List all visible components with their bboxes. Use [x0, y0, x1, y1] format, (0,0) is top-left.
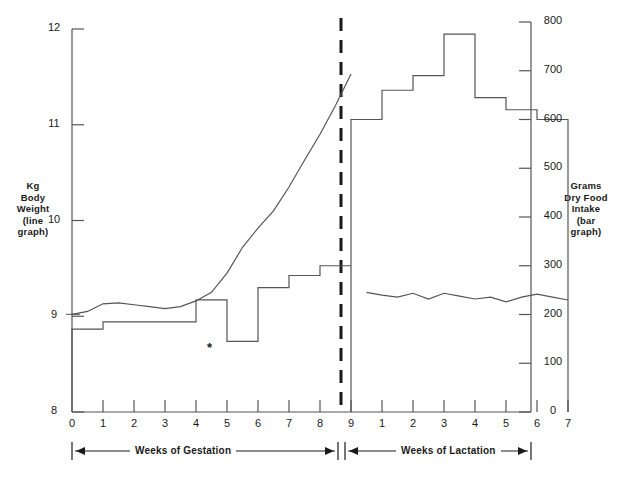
x-tick-label-8: 8 — [310, 417, 330, 429]
gestation-band-label: Weeks of Gestation — [130, 445, 236, 456]
gestation-bar-steps — [72, 266, 351, 412]
x-tick-label-7: 7 — [279, 417, 299, 429]
asterisk-annotation: * — [207, 340, 212, 355]
right-tick-label-500: 500 — [540, 160, 566, 172]
right-tick-label-600: 600 — [540, 112, 566, 124]
x-tick-label-12: 3 — [434, 417, 454, 429]
left-tick-label-8: 8 — [44, 404, 64, 416]
x-tick-label-1: 1 — [93, 417, 113, 429]
plot-area — [0, 0, 617, 484]
x-tick-label-9: 9 — [341, 417, 361, 429]
left-tick-label-12: 12 — [44, 21, 64, 33]
lactation-band-label: Weeks of Lactation — [396, 445, 501, 456]
x-tick-label-0: 0 — [62, 417, 82, 429]
x-tick-label-16: 7 — [558, 417, 578, 429]
right-tick-label-400: 400 — [540, 209, 566, 221]
left-tick-label-9: 9 — [44, 308, 64, 320]
right-tick-label-300: 300 — [540, 258, 566, 270]
left-tick-label-10: 10 — [44, 213, 64, 225]
lactation-bracket-arrow-right — [518, 447, 527, 455]
x-tick-label-2: 2 — [124, 417, 144, 429]
right-tick-label-200: 200 — [540, 307, 566, 319]
x-tick-label-14: 5 — [496, 417, 516, 429]
right-tick-marks — [519, 22, 531, 412]
x-tick-label-6: 6 — [248, 417, 268, 429]
left-tick-marks — [72, 29, 84, 412]
gestation-bracket-arrow-left — [76, 447, 85, 455]
figure-canvas: Kg Body Weight (line graph) Grams Dry Fo… — [0, 0, 617, 484]
x-tick-label-4: 4 — [186, 417, 206, 429]
x-tick-label-15: 6 — [527, 417, 547, 429]
bar-series-group — [72, 34, 568, 412]
bodyweight-line-lactation — [367, 292, 569, 302]
x-tick-marks — [103, 400, 568, 412]
lactation-bracket-arrow-left — [349, 447, 358, 455]
gestation-bracket-arrow-right — [325, 447, 334, 455]
right-tick-label-100: 100 — [540, 355, 566, 367]
x-tick-label-5: 5 — [217, 417, 237, 429]
line-series-group — [66, 74, 568, 314]
x-tick-label-11: 2 — [403, 417, 423, 429]
x-tick-label-3: 3 — [155, 417, 175, 429]
right-tick-label-0: 0 — [540, 404, 566, 416]
left-tick-label-11: 11 — [44, 117, 64, 129]
x-tick-label-10: 1 — [372, 417, 392, 429]
right-tick-label-700: 700 — [540, 63, 566, 75]
x-tick-label-13: 4 — [465, 417, 485, 429]
bodyweight-line-gestation — [72, 74, 351, 314]
axes-group — [72, 18, 531, 412]
lactation-bar-steps — [351, 34, 568, 412]
right-tick-label-800: 800 — [540, 14, 566, 26]
